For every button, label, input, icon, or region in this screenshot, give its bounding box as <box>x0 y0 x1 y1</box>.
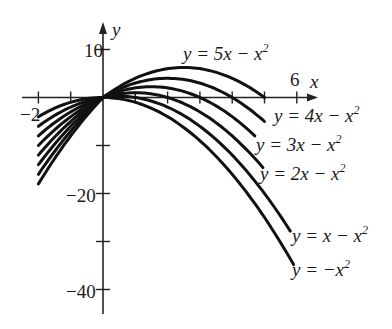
function-family-plot: y 10 −2 6 x −20 −40 y = 5x − x2 y = 4x −… <box>0 0 392 329</box>
y-axis-arrow-icon <box>99 22 107 34</box>
curve-label-1x: y = x − x2 <box>292 226 368 245</box>
x-tick-label-neg2: −2 <box>20 105 40 124</box>
y-tick-label-10: 10 <box>84 41 103 60</box>
curve-label-5x: y = 5x − x2 <box>183 44 268 63</box>
curve-label-3x: y = 3x − x2 <box>256 135 341 154</box>
curve-label-2x: y = 2x − x2 <box>260 164 345 183</box>
x-tick-label-6: 6 <box>290 70 300 89</box>
y-tick-label-neg40: −40 <box>66 282 96 301</box>
curve-label-0x: y = −x2 <box>292 260 350 279</box>
y-axis-label: y <box>112 20 120 39</box>
x-axis-label: x <box>310 72 318 91</box>
curve-label-4x: y = 4x − x2 <box>274 106 359 125</box>
y-tick-label-neg20: −20 <box>66 186 96 205</box>
x-axis-arrow-icon <box>307 94 318 102</box>
